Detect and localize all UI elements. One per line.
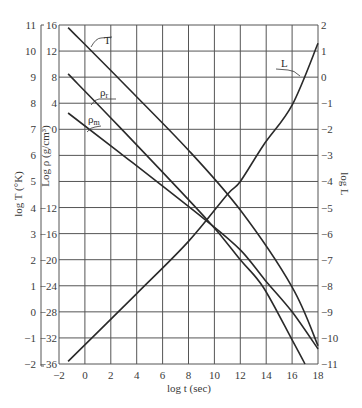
curve-annotations: TρrρmL bbox=[87, 34, 300, 132]
y-axis-label-logT: log T (°K) bbox=[12, 171, 25, 217]
y-tick-label-logT: 1 bbox=[31, 280, 37, 292]
y-tick-label-logT: 9 bbox=[31, 71, 37, 83]
x-tick-label: 4 bbox=[134, 369, 140, 381]
y-tick-label-logL: −6 bbox=[321, 228, 333, 240]
y-tick-label-logL: −3 bbox=[321, 149, 333, 161]
curve-rho-m bbox=[68, 113, 318, 349]
y-tick-label-logrho: −32 bbox=[40, 332, 57, 344]
y-tick-label-logL: 2 bbox=[321, 19, 327, 31]
y-tick-label-logL: −7 bbox=[321, 254, 333, 266]
y-tick-label-logrho: −20 bbox=[40, 254, 58, 266]
y-tick-label-logT: 6 bbox=[31, 149, 37, 161]
y-tick-label-logrho: −28 bbox=[40, 306, 58, 318]
rho-m-label: ρm bbox=[88, 113, 101, 127]
y-tick-label-logL: −8 bbox=[321, 280, 333, 292]
y-tick-label-logL: −11 bbox=[321, 358, 338, 370]
y-tick-label-logrho: −36 bbox=[40, 358, 58, 370]
y-tick-label-logrho: 12 bbox=[46, 45, 57, 57]
y-tick-label-logrho: 0 bbox=[52, 123, 58, 135]
x-tick-label: 0 bbox=[82, 369, 88, 381]
y-tick-label-logL: −9 bbox=[321, 306, 333, 318]
y-tick-label-logT: 2 bbox=[31, 254, 37, 266]
y-tick-label-logrho: −12 bbox=[40, 202, 57, 214]
y-tick-label-logrho: −24 bbox=[40, 280, 58, 292]
T-label: T bbox=[104, 34, 111, 46]
y-tick-label-logL: 1 bbox=[321, 45, 327, 57]
y-tick-label-logL: −1 bbox=[321, 97, 333, 109]
L-leader-line bbox=[276, 69, 300, 76]
x-tick-label: 14 bbox=[261, 369, 273, 381]
y-tick-label-logT: 4 bbox=[31, 202, 37, 214]
y-tick-label-logL: −4 bbox=[321, 175, 333, 187]
y-tick-label-logL: 0 bbox=[321, 71, 327, 83]
x-tick-label: 12 bbox=[235, 369, 246, 381]
x-tick-label: 2 bbox=[108, 369, 114, 381]
rho-r-label: ρr bbox=[100, 86, 109, 100]
y-tick-label-logT: 7 bbox=[31, 123, 37, 135]
curve-rho-r bbox=[68, 74, 305, 364]
y-tick-label-logrho: 8 bbox=[52, 71, 58, 83]
x-tick-label: 10 bbox=[209, 369, 221, 381]
y-tick-label-logT: 8 bbox=[31, 97, 37, 109]
curves bbox=[68, 28, 318, 364]
y-tick-label-logT: 11 bbox=[25, 19, 36, 31]
y-tick-label-logrho: 16 bbox=[46, 19, 58, 31]
y-tick-label-logT: 0 bbox=[31, 306, 37, 318]
y-tick-label-logT: 3 bbox=[31, 228, 37, 240]
x-tick-label: 18 bbox=[313, 369, 325, 381]
x-tick-label: 6 bbox=[160, 369, 166, 381]
y-axis-label-logL: log L bbox=[339, 172, 351, 196]
y-tick-label-logT: −1 bbox=[24, 332, 36, 344]
grid-lines bbox=[59, 25, 318, 364]
x-tick-label: −2 bbox=[53, 369, 65, 381]
y-tick-label-logT: −2 bbox=[24, 358, 36, 370]
y-tick-label-logrho: 4 bbox=[52, 97, 58, 109]
x-tick-label: 16 bbox=[287, 369, 299, 381]
y-tick-label-logT: 10 bbox=[25, 45, 37, 57]
stellar-evolution-chart: −20246810121416181612840−12−16−20−24−28−… bbox=[0, 0, 362, 408]
x-axis-label: log t (sec) bbox=[167, 382, 211, 395]
y-tick-label-logT: 5 bbox=[31, 175, 37, 187]
L-label: L bbox=[281, 57, 288, 69]
x-tick-label: 8 bbox=[186, 369, 192, 381]
y-tick-label-logL: −2 bbox=[321, 123, 333, 135]
y-tick-label-logL: −10 bbox=[321, 332, 339, 344]
y-tick-label-logL: −5 bbox=[321, 202, 333, 214]
y-tick-label-logrho: −16 bbox=[40, 228, 58, 240]
y-axis-label-logrho: Log ρ (g/cm³) bbox=[39, 125, 52, 187]
